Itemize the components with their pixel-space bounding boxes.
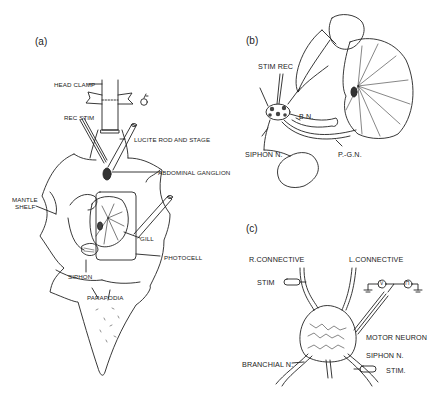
pulse-generator-icon: ⊓ xyxy=(405,279,410,286)
voltmeter-icon: V xyxy=(380,280,383,286)
label-shelf: SHELF xyxy=(15,203,35,210)
label-pgn: P.-G.N. xyxy=(338,150,362,159)
label-l-connective: L.CONNECTIVE xyxy=(349,255,403,264)
panel-label-a: (a) xyxy=(35,36,47,47)
panel-label-b: (b) xyxy=(246,35,258,46)
label-stim2: STIM. xyxy=(386,366,406,375)
label-lucite-rod: LUCITE ROD AND STAGE xyxy=(134,136,210,143)
label-rec-stim: REC STIM xyxy=(64,114,94,121)
label-siphon-n-b: SIPHON N. xyxy=(245,150,283,159)
label-photocell: PHOTOCELL xyxy=(164,254,202,261)
label-abdominal-ganglion: ABDOMINAL GANGLION xyxy=(158,169,230,176)
label-motor-neuron: MOTOR NEURON xyxy=(366,333,427,342)
panel-label-c: (c) xyxy=(246,223,258,234)
label-stim-rec: STIM REC xyxy=(258,62,293,71)
label-bn: B.N. xyxy=(299,112,313,121)
panel-a-drawing xyxy=(36,80,173,375)
label-parapodia: PARAPODIA xyxy=(87,294,124,301)
panel-b-drawing xyxy=(260,15,413,188)
label-branchial-n: BRANCHIAL N. xyxy=(242,360,293,369)
label-siphon-n-c: SIPHON N. xyxy=(366,351,404,360)
label-head-clamp: HEAD CLAMP xyxy=(54,81,95,88)
label-gill: GILL xyxy=(140,235,154,242)
label-mantle: MANTLE xyxy=(12,196,38,203)
label-stim-c: STIM xyxy=(257,278,275,287)
label-r-connective: R.CONNECTIVE xyxy=(249,255,305,264)
label-siphon: SIPHON xyxy=(68,273,92,280)
